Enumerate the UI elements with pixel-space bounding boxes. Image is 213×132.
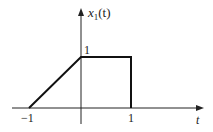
signal-plot: x1(t) 1 −1 1 t: [0, 0, 213, 132]
y-tick-1: 1: [84, 43, 90, 57]
signal-curve: [29, 57, 131, 108]
t-axis-arrow-icon: [196, 105, 204, 111]
y-axis-arrow-icon: [78, 8, 84, 16]
plot-canvas: x1(t) 1 −1 1 t: [0, 0, 213, 132]
x-tick-pos1: 1: [128, 111, 134, 125]
x-tick-neg1: −1: [21, 111, 34, 125]
y-axis-label: x1(t): [87, 5, 111, 22]
x-axis-label: t: [196, 113, 200, 127]
